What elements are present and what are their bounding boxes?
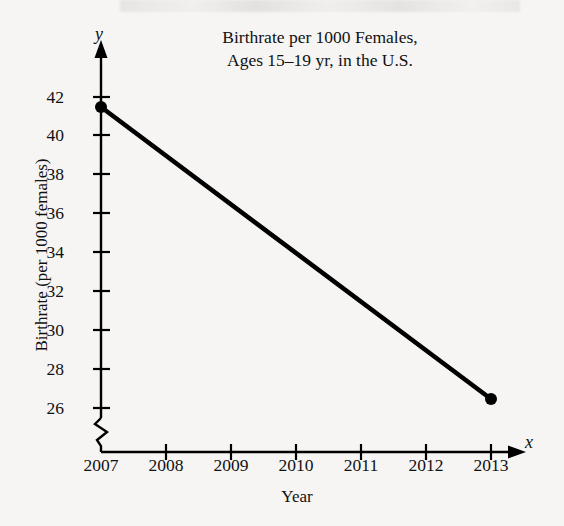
- plot-area: [0, 0, 564, 526]
- data-point-2007: [95, 101, 107, 113]
- data-point-2013: [485, 393, 497, 405]
- trend-line: [101, 107, 491, 399]
- chart-figure: Birthrate per 1000 Females, Ages 15–19 y…: [0, 0, 564, 526]
- x-axis-arrowhead: [508, 446, 526, 459]
- y-axis-arrowhead: [95, 40, 108, 58]
- y-axis-break-zigzag: [95, 418, 107, 452]
- x-axis: [101, 444, 526, 460]
- data-series-birthrate: [95, 101, 497, 405]
